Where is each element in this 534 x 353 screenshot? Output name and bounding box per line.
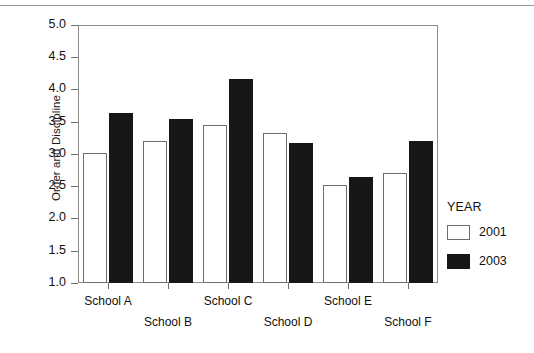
y-tick-label: 2.5 (18, 179, 66, 192)
open-square-swatch-icon (447, 225, 470, 240)
y-tick-label: 2.0 (18, 211, 66, 224)
y-tick-mark (71, 283, 78, 284)
x-axis-label-school-d: School D (243, 316, 333, 328)
top-divider-rule (0, 5, 534, 6)
x-axis-label-school-f: School F (363, 316, 453, 328)
y-tick-mark (71, 122, 78, 123)
bar-school-d-2001 (263, 133, 287, 283)
bar-school-e-2001 (323, 185, 347, 283)
bar-school-a-2003 (109, 113, 133, 283)
bar-school-d-2003 (289, 143, 313, 283)
bar-school-f-2003 (409, 141, 433, 283)
legend-item-2001[interactable]: 2001 (447, 225, 507, 240)
filled-square-swatch-icon (447, 254, 470, 269)
x-tick-mark (168, 283, 169, 289)
y-tick-mark (71, 89, 78, 90)
bar-school-b-2003 (169, 119, 193, 283)
x-tick-mark (288, 283, 289, 289)
y-tick-label: 4.5 (18, 50, 66, 63)
bar-school-a-2001 (83, 153, 107, 283)
chart-legend: YEAR 2001 2003 (447, 200, 507, 283)
legend-item-2003[interactable]: 2003 (447, 254, 507, 269)
x-tick-mark (108, 283, 109, 289)
x-axis-label-school-a: School A (63, 295, 153, 307)
y-tick-label: 3.0 (18, 147, 66, 160)
y-tick-mark (71, 218, 78, 219)
legend-title: YEAR (447, 200, 507, 214)
y-tick-label: 4.0 (18, 82, 66, 95)
x-axis-label-school-b: School B (123, 316, 213, 328)
bar-school-e-2003 (349, 177, 373, 283)
x-axis-label-school-c: School C (183, 295, 273, 307)
bar-school-c-2001 (203, 125, 227, 283)
legend-label: 2003 (479, 255, 507, 268)
y-tick-mark (71, 25, 78, 26)
bar-school-f-2001 (383, 173, 407, 283)
y-tick-label: 3.5 (18, 115, 66, 128)
y-tick-mark (71, 251, 78, 252)
x-tick-mark (348, 283, 349, 289)
legend-label: 2001 (479, 226, 507, 239)
bar-school-b-2001 (143, 141, 167, 283)
y-tick-label: 1.0 (18, 276, 66, 289)
x-tick-mark (408, 283, 409, 289)
y-tick-label: 5.0 (18, 18, 66, 31)
x-tick-mark (228, 283, 229, 289)
y-tick-mark (71, 154, 78, 155)
y-tick-mark (71, 57, 78, 58)
bar-school-c-2003 (229, 79, 253, 283)
chart-figure: Order and Discipline 5.0 4.5 4.0 3.5 3.0… (0, 0, 534, 353)
x-axis-label-school-e: School E (303, 295, 393, 307)
y-tick-mark (71, 186, 78, 187)
y-tick-label: 1.5 (18, 244, 66, 257)
